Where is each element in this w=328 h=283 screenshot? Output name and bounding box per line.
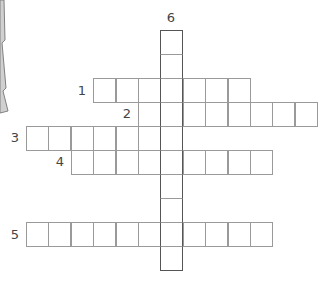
clue-number-1: 1 <box>78 84 86 97</box>
crossword-cell[interactable] <box>93 150 116 175</box>
crossword-cell[interactable] <box>160 126 183 151</box>
crossword-cell[interactable] <box>295 102 318 127</box>
crossword-cell[interactable] <box>26 222 49 247</box>
crossword-cell[interactable] <box>26 126 49 151</box>
crossword-cell[interactable] <box>160 174 183 199</box>
crossword-cell[interactable] <box>48 126 71 151</box>
crossword-cell[interactable] <box>71 222 94 247</box>
crossword-cell[interactable] <box>93 222 116 247</box>
crossword-cell[interactable] <box>183 78 206 103</box>
crossword-cell[interactable] <box>138 222 161 247</box>
crossword-cell[interactable] <box>116 126 139 151</box>
crossword-cell[interactable] <box>183 150 206 175</box>
crossword-cell[interactable] <box>160 150 183 175</box>
crossword-cell[interactable] <box>205 150 228 175</box>
crossword-cell[interactable] <box>160 102 183 127</box>
crossword-cell[interactable] <box>250 102 273 127</box>
crossword-puzzle: 123456 <box>0 0 328 283</box>
clue-number-4: 4 <box>56 155 64 168</box>
crossword-cell[interactable] <box>228 102 251 127</box>
crossword-cell[interactable] <box>116 150 139 175</box>
crossword-cell[interactable] <box>71 150 94 175</box>
crossword-cell[interactable] <box>228 150 251 175</box>
tree-edge-shape <box>0 0 8 113</box>
crossword-cell[interactable] <box>93 126 116 151</box>
crossword-cell[interactable] <box>116 222 139 247</box>
crossword-cell[interactable] <box>272 102 295 127</box>
clue-number-3: 3 <box>11 131 19 144</box>
crossword-cell[interactable] <box>160 78 183 103</box>
tree-decoration-icon <box>0 0 20 120</box>
crossword-cell[interactable] <box>71 126 94 151</box>
crossword-cell[interactable] <box>250 150 273 175</box>
crossword-cell[interactable] <box>48 222 71 247</box>
crossword-cell[interactable] <box>183 102 206 127</box>
crossword-cell[interactable] <box>160 30 183 55</box>
crossword-cell[interactable] <box>138 102 161 127</box>
crossword-cell[interactable] <box>138 150 161 175</box>
crossword-cell[interactable] <box>160 222 183 247</box>
crossword-cell[interactable] <box>138 78 161 103</box>
clue-number-5: 5 <box>11 228 19 241</box>
crossword-cell[interactable] <box>205 78 228 103</box>
crossword-cell[interactable] <box>160 54 183 79</box>
crossword-cell[interactable] <box>138 126 161 151</box>
crossword-cell[interactable] <box>116 78 139 103</box>
crossword-cell[interactable] <box>228 222 251 247</box>
crossword-cell[interactable] <box>183 222 206 247</box>
crossword-cell[interactable] <box>205 102 228 127</box>
crossword-cell[interactable] <box>160 198 183 223</box>
crossword-cell[interactable] <box>228 78 251 103</box>
crossword-cell[interactable] <box>250 222 273 247</box>
crossword-cell[interactable] <box>205 222 228 247</box>
crossword-cell[interactable] <box>93 78 116 103</box>
clue-number-2: 2 <box>123 107 131 120</box>
crossword-cell[interactable] <box>160 246 183 271</box>
clue-number-6: 6 <box>167 11 175 24</box>
